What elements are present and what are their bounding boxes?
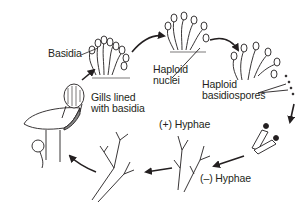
label-plus-hyphae: (+) Hyphae (159, 119, 210, 130)
label-haploid-nuclei-2: nuclei (153, 75, 180, 86)
label-haploid-basidiospores-2: basidiospores (202, 90, 266, 101)
label-minus-hyphae: (–) Hyphae (200, 173, 251, 184)
label-gills-2: with basidia (91, 103, 145, 114)
basidia-pointer (0, 0, 306, 220)
